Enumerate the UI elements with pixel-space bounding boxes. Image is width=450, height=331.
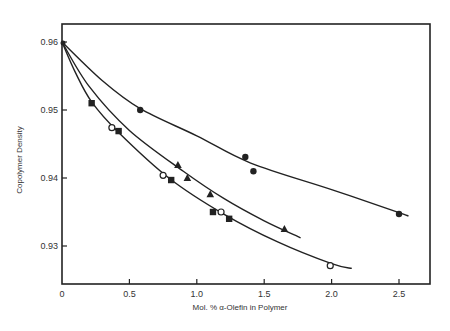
filled-triangles-curve	[62, 42, 301, 238]
filled-squares-point	[88, 100, 94, 106]
filled-squares-point	[226, 216, 232, 222]
x-tick-label: 0	[59, 289, 64, 299]
filled-squares-point	[115, 128, 121, 134]
filled-circles-point	[242, 154, 248, 160]
x-tick-label: 1.5	[258, 289, 271, 299]
open-circles-curve	[62, 42, 352, 268]
x-tick-label: 2.0	[325, 289, 338, 299]
y-tick-label: 0.93	[40, 241, 58, 251]
filled-squares-point	[168, 177, 174, 183]
filled-circles-point	[396, 211, 402, 217]
origin-point	[61, 41, 66, 46]
x-tick-label: 0.5	[123, 289, 136, 299]
filled-triangles-point	[281, 225, 289, 232]
filled-circles-point	[250, 168, 256, 174]
open-circles-point	[109, 125, 115, 131]
filled-squares-point	[210, 209, 216, 215]
open-circles-point	[160, 172, 166, 178]
x-tick-label: 1.0	[191, 289, 204, 299]
fit-curves	[62, 42, 408, 268]
y-axis-label: Copolymer Density	[15, 126, 24, 194]
axis-ticks: 00.51.01.52.02.50.930.940.950.96	[40, 37, 405, 299]
filled-circles-point	[137, 107, 143, 113]
filled-triangles-point	[174, 161, 182, 168]
x-tick-label: 2.5	[393, 289, 406, 299]
y-tick-label: 0.95	[40, 105, 58, 115]
x-axis-label: Mol. % α-Olefin in Polymer	[193, 303, 288, 312]
open-circles-point	[218, 209, 224, 215]
open-circles-point	[327, 263, 333, 269]
y-tick-label: 0.96	[40, 37, 58, 47]
density-chart: 00.51.01.52.02.50.930.940.950.96 Mol. % …	[0, 0, 450, 331]
filled-triangles-point	[184, 174, 192, 181]
y-tick-label: 0.94	[40, 173, 58, 183]
